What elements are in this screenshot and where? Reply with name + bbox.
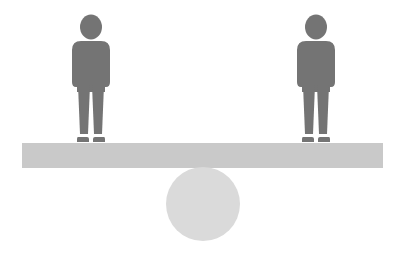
person-left-figure <box>72 15 110 143</box>
seesaw-beam <box>22 143 383 168</box>
seesaw-diagram <box>0 0 406 253</box>
fulcrum-circle <box>166 167 240 241</box>
person-right-figure <box>297 15 335 143</box>
